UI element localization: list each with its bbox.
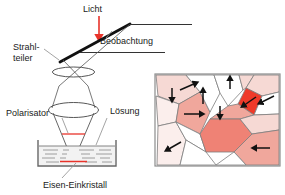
label-beam-splitter-line2: teiler xyxy=(13,53,33,64)
leader-beam-splitter xyxy=(44,49,59,60)
leader-polarizer xyxy=(62,118,68,133)
label-beam-splitter-line1: Strahl- xyxy=(13,42,40,53)
label-polarizer: Polarisator xyxy=(6,108,49,119)
label-observation: Beobachtung xyxy=(100,36,153,47)
grain-cells xyxy=(156,75,279,165)
label-solution: Lösung xyxy=(110,106,140,117)
label-crystal: Eisen-Einkristall xyxy=(43,180,107,191)
leader-crystal xyxy=(62,163,76,178)
grain-structure-panel xyxy=(155,74,280,166)
diagram-canvas xyxy=(0,0,285,195)
lower-lens xyxy=(49,103,99,118)
label-light: Licht xyxy=(83,4,102,15)
leader-solution xyxy=(96,118,107,145)
figure-root: Licht Beobachtung Strahl- teiler Polaris… xyxy=(0,0,285,195)
beaker-group xyxy=(38,140,116,166)
upper-lens xyxy=(53,67,95,77)
